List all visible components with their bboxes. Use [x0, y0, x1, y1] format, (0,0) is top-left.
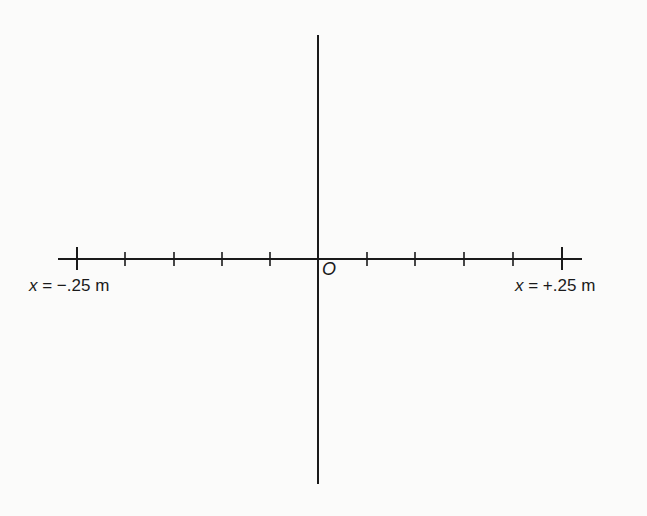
axes-diagram [0, 0, 647, 516]
x-variable: x [515, 276, 524, 295]
left-endpoint-label: x = −.25 m [29, 276, 109, 296]
origin-label: O [322, 259, 336, 280]
left-endpoint-value: = −.25 m [38, 276, 110, 295]
x-variable: x [29, 276, 38, 295]
right-endpoint-label: x = +.25 m [515, 276, 595, 296]
right-endpoint-value: = +.25 m [524, 276, 596, 295]
